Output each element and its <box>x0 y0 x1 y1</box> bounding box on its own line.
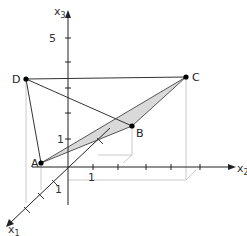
point-a <box>38 160 43 165</box>
edges <box>26 77 186 163</box>
x2-axis-label: x2 <box>237 163 247 177</box>
point-label-b: B <box>136 128 144 139</box>
edge-da <box>26 79 41 163</box>
point-d <box>23 76 28 81</box>
x3-tick-label-1: 1 <box>57 134 64 145</box>
shaded-face-abc <box>41 77 186 163</box>
point-label-d: D <box>12 74 20 85</box>
x3-arrow-icon <box>65 10 71 18</box>
x3-label-sub: 3 <box>61 11 66 20</box>
edge-db <box>26 79 132 126</box>
x1-axis-label: x1 <box>8 224 20 236</box>
point-label-c: C <box>192 72 200 83</box>
coordinate-diagram <box>0 0 247 236</box>
x1-label-sub: 1 <box>15 229 20 236</box>
point-c <box>183 74 188 79</box>
x2-arrow-icon <box>228 164 236 170</box>
points <box>23 74 188 165</box>
edge-dc <box>26 77 186 79</box>
x3-tick-label-5: 5 <box>49 33 56 44</box>
point-b <box>129 123 134 128</box>
point-label-a: A <box>31 158 39 169</box>
x2-label-sub: 2 <box>244 168 247 177</box>
x2-tick-label-1: 1 <box>88 172 95 183</box>
x1-tick-label-1: 1 <box>55 184 62 195</box>
guide-b-diag <box>123 155 132 163</box>
x3-axis-label: x3 <box>54 6 66 20</box>
guide-bottom-diag <box>186 170 196 180</box>
